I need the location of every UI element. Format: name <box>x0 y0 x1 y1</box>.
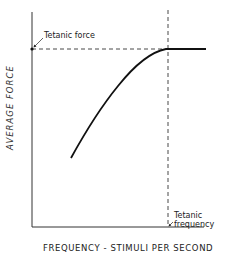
force-frequency-curve <box>71 49 206 158</box>
tetanic-force-point <box>30 47 33 50</box>
tetanic-frequency-label-line1: Tetanic <box>174 212 202 220</box>
x-axis-label: FREQUENCY - STIMULI PER SECOND <box>43 243 213 253</box>
y-axis-label: AVERAGE FORCE <box>5 65 15 150</box>
tetanic-frequency-label-line2: frequency <box>174 221 214 229</box>
tetanic-force-label: Tetanic force <box>44 32 95 40</box>
